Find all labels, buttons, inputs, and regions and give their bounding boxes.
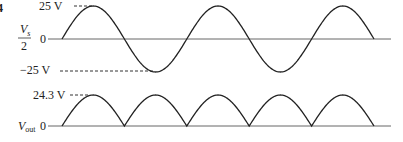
top-plot: Vs 2 0 25 V −25 V [18,0,391,77]
top-peak-label: 25 V [39,0,63,13]
waveform-diagram: 4 Vs 2 0 25 V −25 V Vout 0 24.3 V [0,0,403,142]
bottom-peak-label: 24.3 V [33,88,66,102]
figure-number: 4 [0,1,3,15]
top-zero-label: 0 [40,32,46,46]
bottom-plot: Vout 0 24.3 V [18,88,391,134]
ylabel-vs-numerator: Vs [20,22,30,38]
top-trough-label: −25 V [20,63,51,77]
bottom-zero-label: 0 [40,119,46,133]
ylabel-vs-denominator: 2 [21,39,27,53]
rectified-wave [62,95,374,126]
ylabel-vout: Vout [18,119,36,134]
